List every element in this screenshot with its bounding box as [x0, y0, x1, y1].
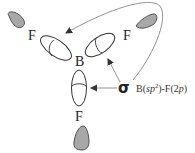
- lobe-upper-right: [136, 14, 157, 28]
- atom-f-upper-left: F: [28, 28, 36, 43]
- atom-b-central: B: [75, 54, 84, 69]
- lobe-upper-left: [8, 12, 24, 28]
- sigma-bond-upper-left: [37, 31, 76, 65]
- sigma-bond-upper-right: [81, 29, 118, 62]
- sigma-symbol: σ: [118, 79, 130, 97]
- sigma-bond-bottom: [72, 70, 87, 106]
- bond-label: B(sp2)-F(2p): [136, 82, 187, 95]
- atom-f-bottom: F: [75, 109, 83, 124]
- atom-f-upper-right: F: [123, 28, 131, 43]
- lobe-bottom: [74, 126, 89, 150]
- bf3-orbital-diagram: F F B F σ B(sp2)-F(2p): [0, 0, 195, 153]
